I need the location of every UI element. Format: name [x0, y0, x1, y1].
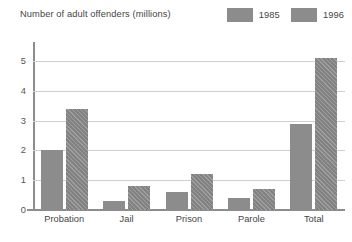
bar-parole-1985	[228, 198, 250, 210]
y-axis-line	[33, 42, 35, 210]
x-label-probation: Probation	[44, 214, 84, 224]
bar-probation-1985	[41, 150, 63, 210]
bar-jail-1985	[103, 201, 125, 210]
plot-area	[33, 46, 345, 210]
bar-parole-1996	[253, 189, 275, 210]
y-axis-tick-labels: 012345	[0, 46, 26, 210]
x-axis-category-labels: ProbationJailPrisonParoleTotal	[33, 214, 345, 234]
chart-title: Number of adult offenders (millions)	[20, 9, 171, 19]
y-tick-label: 4	[21, 86, 26, 96]
bar-prison-1996	[191, 174, 213, 210]
bar-probation-1996	[66, 109, 88, 210]
bar-total-1996	[315, 58, 337, 210]
legend-label-1985: 1985	[259, 10, 280, 20]
y-tick-label: 5	[21, 56, 26, 66]
legend-label-1996: 1996	[323, 10, 344, 20]
bar-jail-1996	[128, 186, 150, 210]
legend-swatch-1996	[291, 8, 317, 22]
y-tick-label: 1	[21, 175, 26, 185]
chart-legend: 1985 1996	[227, 8, 344, 22]
bar-total-1985	[290, 124, 312, 210]
y-tick-label: 2	[21, 145, 26, 155]
x-label-jail: Jail	[120, 214, 134, 224]
gridline	[33, 91, 345, 92]
bar-chart: Number of adult offenders (millions) 198…	[0, 0, 352, 242]
legend-entry-1996: 1996	[291, 8, 344, 22]
legend-swatch-1985	[227, 8, 253, 22]
y-tick-label: 3	[21, 116, 26, 126]
bar-prison-1985	[166, 192, 188, 210]
gridline	[33, 61, 345, 62]
legend-entry-1985: 1985	[227, 8, 280, 22]
x-label-total: Total	[304, 214, 324, 224]
y-tick-label: 0	[21, 205, 26, 215]
x-label-parole: Parole	[238, 214, 265, 224]
x-label-prison: Prison	[176, 214, 202, 224]
